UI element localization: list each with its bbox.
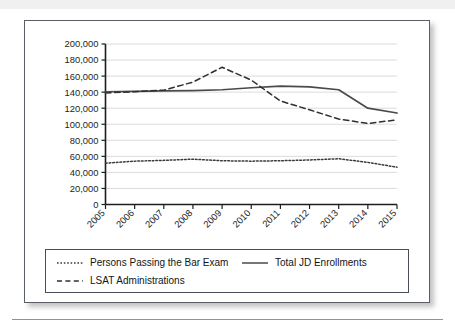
- svg-text:2011: 2011: [260, 207, 282, 229]
- page-horizontal-rule: [12, 319, 443, 320]
- series-line: [106, 159, 398, 167]
- legend-item-jd-enrollments: Total JD Enrollments: [242, 257, 367, 268]
- legend-label-jd-enrollments: Total JD Enrollments: [275, 257, 367, 268]
- svg-text:80,000: 80,000: [70, 135, 99, 146]
- svg-text:2006: 2006: [114, 207, 137, 230]
- svg-text:2012: 2012: [288, 207, 311, 230]
- svg-text:200,000: 200,000: [65, 38, 99, 49]
- svg-text:2008: 2008: [172, 207, 195, 230]
- legend-item-bar-exam: Persons Passing the Bar Exam: [57, 257, 228, 268]
- gridlines: [106, 44, 398, 188]
- svg-text:2013: 2013: [318, 207, 341, 230]
- svg-text:60,000: 60,000: [70, 151, 99, 162]
- page-top-band: [0, 0, 455, 9]
- svg-text:120,000: 120,000: [65, 103, 99, 114]
- svg-text:180,000: 180,000: [65, 54, 99, 65]
- legend-label-lsat: LSAT Administrations: [90, 275, 185, 286]
- svg-text:2007: 2007: [143, 207, 166, 230]
- svg-text:2009: 2009: [201, 207, 224, 230]
- svg-text:20,000: 20,000: [70, 183, 99, 194]
- legend-label-bar-exam: Persons Passing the Bar Exam: [90, 257, 228, 268]
- solid-line-icon: [242, 258, 268, 268]
- y-axis-tick-labels: 020,00040,00060,00080,000100,000120,0001…: [65, 38, 99, 210]
- dotted-line-icon: [57, 258, 83, 268]
- svg-text:160,000: 160,000: [65, 71, 99, 82]
- dashed-line-icon: [57, 276, 83, 286]
- svg-text:140,000: 140,000: [65, 87, 99, 98]
- figure-card: 020,00040,00060,00080,000100,000120,0001…: [24, 20, 430, 303]
- series-line: [106, 86, 398, 113]
- svg-text:40,000: 40,000: [70, 167, 99, 178]
- legend-item-lsat: LSAT Administrations: [57, 275, 185, 286]
- svg-text:100,000: 100,000: [65, 119, 99, 130]
- chart-legend: Persons Passing the Bar Exam Total JD En…: [45, 249, 409, 293]
- svg-text:2010: 2010: [230, 207, 253, 230]
- x-axis-tick-labels: 2005200620072008200920102011201220132014…: [84, 207, 398, 230]
- svg-text:2005: 2005: [84, 207, 107, 230]
- svg-text:2014: 2014: [347, 207, 370, 230]
- svg-text:2015: 2015: [376, 207, 399, 230]
- data-series-lines: [106, 67, 398, 167]
